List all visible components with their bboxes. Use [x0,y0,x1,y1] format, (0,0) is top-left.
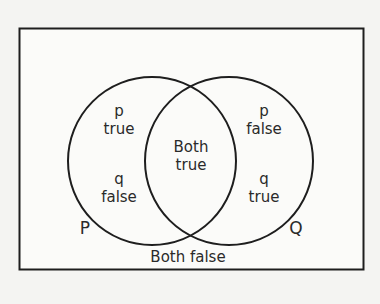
q-only-p-label: p [259,102,269,120]
p-only-q-label: q [114,170,124,188]
q-only-p-value: false [246,120,282,138]
q-only-q-value: true [249,188,280,206]
outside-label: Both false [150,248,225,266]
intersection-line1: Both [174,138,209,156]
venn-diagram: p true q false Both true p false q true … [0,0,380,304]
set-q-label: Q [289,218,302,238]
intersection-line2: true [176,156,207,174]
q-only-q-label: q [259,170,269,188]
p-only-q-value: false [101,188,137,206]
p-only-p-value: true [104,120,135,138]
set-p-label: P [80,218,90,238]
p-only-p-label: p [114,102,124,120]
